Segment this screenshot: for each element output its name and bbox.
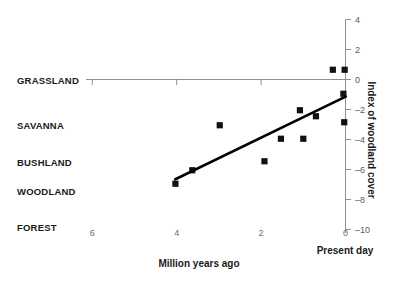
present-day-label: Present day <box>317 245 374 256</box>
chart-canvas <box>0 0 399 285</box>
x-axis-ticks <box>92 80 345 86</box>
data-point <box>261 158 267 164</box>
data-point <box>330 67 336 73</box>
data-point <box>172 181 178 187</box>
x-tick-label: 6 <box>90 228 95 238</box>
data-point <box>217 122 223 128</box>
data-point <box>341 119 347 125</box>
data-point <box>342 67 348 73</box>
y-tick-label: 2 <box>355 45 360 55</box>
y-tick-label: 0 <box>355 75 360 85</box>
x-tick-label: 0 <box>343 228 348 238</box>
y-tick-label: –6 <box>355 165 365 175</box>
data-point <box>297 107 303 113</box>
data-point <box>313 113 319 119</box>
y-tick-label: –2 <box>355 105 365 115</box>
y-tick-label: –4 <box>355 135 365 145</box>
y-tick-label: –10 <box>355 225 370 235</box>
trend-line <box>175 97 345 180</box>
woodland-cover-chart: GRASSLANDSAVANNABUSHLANDWOODLANDFOREST 6… <box>0 0 399 285</box>
vegetation-label-savanna: SAVANNA <box>17 119 64 130</box>
y-tick-label: 4 <box>355 15 360 25</box>
x-axis-title: Million years ago <box>158 258 239 269</box>
data-point <box>300 136 306 142</box>
vegetation-label-grassland: GRASSLAND <box>17 74 79 85</box>
vegetation-label-woodland: WOODLAND <box>17 185 76 196</box>
x-tick-label: 2 <box>259 228 264 238</box>
x-tick-label: 4 <box>174 228 179 238</box>
vegetation-label-bushland: BUSHLAND <box>17 157 72 168</box>
data-point <box>278 136 284 142</box>
vegetation-label-forest: FOREST <box>17 221 57 232</box>
y-axis-title: Index of woodland cover <box>366 81 377 198</box>
y-tick-label: –8 <box>355 195 365 205</box>
